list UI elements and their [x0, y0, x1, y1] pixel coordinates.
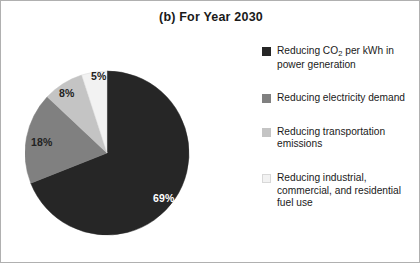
legend-label-text-part: Reducing electricity: [277, 92, 365, 103]
legend-label-electricity-demand: Reducing electricity demand: [277, 92, 405, 105]
page-title: (b) For Year 2030: [1, 10, 420, 24]
pie-label-industrial-commercial-residential: 5%: [91, 70, 107, 82]
legend-label-power-generation: Reducing CO2 per kWh in power generation: [277, 45, 413, 71]
pie-slices-group: [25, 46, 250, 261]
legend-label-industrial-commercial-residential: Reducing industrial, commercial, and res…: [277, 172, 413, 210]
legend-item-electricity-demand[interactable]: Reducing electricity demand: [262, 92, 414, 105]
legend-label-transportation-emissions: Reducing transportation emissions: [277, 126, 413, 151]
legend-label-text-part: Reducing CO: [277, 45, 338, 56]
legend-label-text-part: per kWh in: [342, 45, 394, 56]
legend: Reducing CO2 per kWh in power generation…: [262, 45, 414, 231]
legend-label-text-part: emissions: [277, 138, 322, 149]
legend-swatch-icon-electricity-demand: [262, 94, 271, 103]
pie-chart-figure: (b) For Year 2030 69% 18% 8% 5% Reducing…: [0, 0, 420, 263]
legend-swatch-icon-industrial-commercial-residential: [262, 174, 271, 183]
legend-item-industrial-commercial-residential[interactable]: Reducing industrial, commercial, and res…: [262, 172, 414, 210]
legend-item-power-generation[interactable]: Reducing CO2 per kWh in power generation: [262, 45, 414, 71]
legend-label-text-part: commercial, and: [277, 185, 352, 196]
legend-item-transportation-emissions[interactable]: Reducing transportation emissions: [262, 126, 414, 151]
pie-chart-plot: 69% 18% 8% 5%: [25, 46, 250, 261]
legend-label-text-part: demand: [368, 92, 405, 103]
pie-label-electricity-demand: 18%: [31, 136, 53, 148]
legend-label-text-part: Reducing industrial,: [277, 172, 366, 183]
legend-swatch-icon-power-generation: [262, 47, 271, 56]
legend-label-text-part: power generation: [277, 59, 356, 70]
subscript-two: 2: [338, 49, 342, 58]
legend-swatch-icon-transportation-emissions: [262, 128, 271, 137]
pie-label-transportation-emissions: 8%: [59, 87, 75, 99]
pie-label-power-generation: 69%: [153, 192, 175, 204]
legend-label-text-part: Reducing transportation: [277, 126, 385, 137]
